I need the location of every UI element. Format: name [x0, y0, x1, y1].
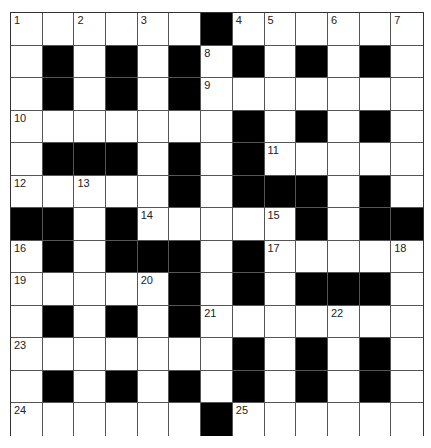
- grid-cell[interactable]: [106, 403, 138, 436]
- grid-cell[interactable]: 20: [138, 273, 170, 306]
- grid-cell[interactable]: [360, 78, 392, 111]
- grid-cell[interactable]: 7: [391, 13, 423, 46]
- grid-cell[interactable]: [328, 176, 360, 209]
- grid-cell[interactable]: [74, 78, 106, 111]
- grid-cell[interactable]: [106, 338, 138, 371]
- grid-cell[interactable]: [296, 403, 328, 436]
- grid-cell[interactable]: [391, 143, 423, 176]
- grid-cell[interactable]: 15: [265, 208, 297, 241]
- grid-cell[interactable]: 6: [328, 13, 360, 46]
- grid-cell[interactable]: [328, 143, 360, 176]
- grid-cell[interactable]: [169, 338, 201, 371]
- grid-cell[interactable]: [169, 208, 201, 241]
- grid-cell[interactable]: [201, 338, 233, 371]
- grid-cell[interactable]: 18: [391, 241, 423, 274]
- grid-cell[interactable]: [296, 241, 328, 274]
- grid-cell[interactable]: [106, 111, 138, 144]
- grid-cell[interactable]: [74, 241, 106, 274]
- grid-cell[interactable]: [11, 78, 43, 111]
- grid-cell[interactable]: [391, 273, 423, 306]
- grid-cell[interactable]: [74, 273, 106, 306]
- grid-cell[interactable]: 3: [138, 13, 170, 46]
- grid-cell[interactable]: [201, 176, 233, 209]
- grid-cell[interactable]: [265, 306, 297, 339]
- grid-cell[interactable]: [360, 306, 392, 339]
- grid-cell[interactable]: 23: [11, 338, 43, 371]
- grid-cell[interactable]: 14: [138, 208, 170, 241]
- grid-cell[interactable]: [265, 338, 297, 371]
- grid-cell[interactable]: [296, 78, 328, 111]
- grid-cell[interactable]: [11, 46, 43, 79]
- grid-cell[interactable]: 21: [201, 306, 233, 339]
- grid-cell[interactable]: [138, 306, 170, 339]
- grid-cell[interactable]: [328, 46, 360, 79]
- grid-cell[interactable]: 22: [328, 306, 360, 339]
- grid-cell[interactable]: 9: [201, 78, 233, 111]
- grid-cell[interactable]: [391, 371, 423, 404]
- grid-cell[interactable]: [169, 111, 201, 144]
- grid-cell[interactable]: 24: [11, 403, 43, 436]
- grid-cell[interactable]: [265, 78, 297, 111]
- grid-cell[interactable]: [138, 371, 170, 404]
- grid-cell[interactable]: [391, 338, 423, 371]
- grid-cell[interactable]: [11, 371, 43, 404]
- grid-cell[interactable]: [138, 46, 170, 79]
- grid-cell[interactable]: [74, 338, 106, 371]
- grid-cell[interactable]: [138, 143, 170, 176]
- grid-cell[interactable]: [296, 143, 328, 176]
- grid-cell[interactable]: [138, 403, 170, 436]
- grid-cell[interactable]: [106, 13, 138, 46]
- grid-cell[interactable]: [233, 78, 265, 111]
- grid-cell[interactable]: [360, 143, 392, 176]
- grid-cell[interactable]: 1: [11, 13, 43, 46]
- grid-cell[interactable]: [201, 371, 233, 404]
- grid-cell[interactable]: [106, 273, 138, 306]
- grid-cell[interactable]: [169, 403, 201, 436]
- grid-cell[interactable]: [43, 403, 75, 436]
- grid-cell[interactable]: 2: [74, 13, 106, 46]
- grid-cell[interactable]: [391, 176, 423, 209]
- grid-cell[interactable]: [169, 13, 201, 46]
- grid-cell[interactable]: [11, 306, 43, 339]
- grid-cell[interactable]: [328, 371, 360, 404]
- grid-cell[interactable]: [201, 273, 233, 306]
- grid-cell[interactable]: [201, 208, 233, 241]
- grid-cell[interactable]: [233, 208, 265, 241]
- grid-cell[interactable]: 11: [265, 143, 297, 176]
- grid-cell[interactable]: 19: [11, 273, 43, 306]
- grid-cell[interactable]: [138, 78, 170, 111]
- grid-cell[interactable]: 4: [233, 13, 265, 46]
- grid-cell[interactable]: [391, 111, 423, 144]
- grid-cell[interactable]: [74, 111, 106, 144]
- grid-cell[interactable]: [296, 306, 328, 339]
- grid-cell[interactable]: [391, 403, 423, 436]
- grid-cell[interactable]: [328, 208, 360, 241]
- grid-cell[interactable]: 17: [265, 241, 297, 274]
- grid-cell[interactable]: [74, 208, 106, 241]
- grid-cell[interactable]: [265, 111, 297, 144]
- grid-cell[interactable]: [360, 403, 392, 436]
- grid-cell[interactable]: [328, 78, 360, 111]
- grid-cell[interactable]: [138, 176, 170, 209]
- grid-cell[interactable]: [360, 13, 392, 46]
- grid-cell[interactable]: 16: [11, 241, 43, 274]
- grid-cell[interactable]: 13: [74, 176, 106, 209]
- grid-cell[interactable]: 12: [11, 176, 43, 209]
- grid-cell[interactable]: [328, 111, 360, 144]
- grid-cell[interactable]: [74, 46, 106, 79]
- grid-cell[interactable]: 5: [265, 13, 297, 46]
- grid-cell[interactable]: [201, 111, 233, 144]
- grid-cell[interactable]: 25: [233, 403, 265, 436]
- grid-cell[interactable]: [391, 46, 423, 79]
- grid-cell[interactable]: [201, 143, 233, 176]
- grid-cell[interactable]: [74, 306, 106, 339]
- grid-cell[interactable]: [106, 176, 138, 209]
- grid-cell[interactable]: [43, 111, 75, 144]
- grid-cell[interactable]: [74, 403, 106, 436]
- grid-cell[interactable]: [43, 338, 75, 371]
- grid-cell[interactable]: [296, 13, 328, 46]
- grid-cell[interactable]: [265, 46, 297, 79]
- grid-cell[interactable]: [328, 241, 360, 274]
- grid-cell[interactable]: [265, 371, 297, 404]
- grid-cell[interactable]: [43, 273, 75, 306]
